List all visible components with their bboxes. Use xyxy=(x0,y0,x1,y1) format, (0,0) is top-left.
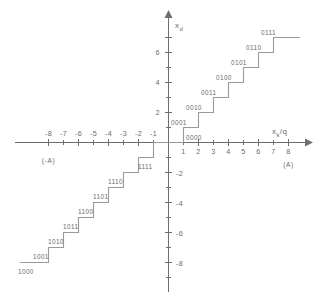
x-tick-label-minus5: -5 xyxy=(90,129,97,138)
code-label-0011: 0011 xyxy=(201,89,216,96)
y-tick-label-2: 2 xyxy=(156,108,160,117)
quantizer-transfer-plot: -8 -7 -6 -5 -4 -3 -2 -1 1 2 3 4 5 6 7 8 … xyxy=(0,0,323,303)
x-tick-label-4: 4 xyxy=(226,147,230,156)
x-tick-label-3: 3 xyxy=(211,147,215,156)
right-range-note: (A) xyxy=(283,161,294,169)
code-label-1101: 1101 xyxy=(93,193,108,200)
code-label-0100: 0100 xyxy=(216,74,232,81)
code-label-1110: 1110 xyxy=(108,178,123,185)
code-label-1010: 1010 xyxy=(48,238,64,245)
y-tick-label-6: 6 xyxy=(156,48,160,57)
code-label-0010: 0010 xyxy=(186,104,202,111)
y-tick-label-minus2: -2 xyxy=(176,169,183,178)
y-axis-title: xd xyxy=(175,21,183,32)
x-axis-title: xk/q xyxy=(272,127,287,138)
code-label-1001: 1001 xyxy=(33,253,49,260)
x-tick-label-minus2: -2 xyxy=(135,129,142,138)
x-tick-label-minus4: -4 xyxy=(105,129,112,138)
x-tick-label-minus1: -1 xyxy=(150,129,157,138)
code-label-0110: 0110 xyxy=(246,44,261,51)
y-tick-label-minus4: -4 xyxy=(176,199,183,208)
x-tick-label-7: 7 xyxy=(271,147,275,156)
x-tick-label-1: 1 xyxy=(181,147,185,156)
y-axis-arrowhead xyxy=(165,10,173,18)
chart-figure: -8 -7 -6 -5 -4 -3 -2 -1 1 2 3 4 5 6 7 8 … xyxy=(0,0,323,303)
y-tick-label-minus8: -8 xyxy=(176,259,183,268)
x-tick-label-minus7: -7 xyxy=(60,129,67,138)
code-label-1000: 1000 xyxy=(18,268,34,275)
left-range-note: (-A) xyxy=(42,157,55,165)
code-label-0001: 0001 xyxy=(171,119,187,126)
code-label-1011: 1011 xyxy=(63,223,78,230)
x-tick-label-2: 2 xyxy=(196,147,200,156)
code-label-1111: 1111 xyxy=(138,163,152,170)
x-axis-arrowhead xyxy=(305,139,313,147)
x-tick-label-8: 8 xyxy=(286,147,290,156)
y-tick-label-4: 4 xyxy=(156,78,160,87)
code-label-0101: 0101 xyxy=(231,59,247,66)
x-tick-label-6: 6 xyxy=(256,147,260,156)
x-tick-label-5: 5 xyxy=(241,147,245,156)
y-tick-label-minus6: -6 xyxy=(176,229,183,238)
code-labels-negative: 1111 1110 1101 1100 1011 1010 1001 1000 xyxy=(18,163,152,275)
x-tick-label-minus8: -8 xyxy=(45,129,52,138)
code-label-1100: 1100 xyxy=(78,208,93,215)
code-labels-positive: 0000 0001 0010 0011 0100 0101 0110 0111 xyxy=(171,29,276,141)
code-label-0000: 0000 xyxy=(186,134,202,141)
code-label-0111: 0111 xyxy=(261,29,276,36)
x-tick-label-minus3: -3 xyxy=(120,129,127,138)
x-tick-label-minus6: -6 xyxy=(75,129,82,138)
